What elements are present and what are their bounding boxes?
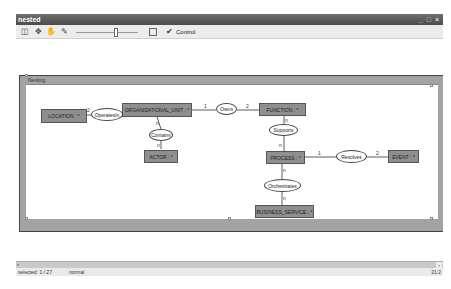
- slider-track: [76, 32, 138, 33]
- multiplicity-label: n: [279, 142, 282, 148]
- diagram-canvas[interactable]: Nesting LOCATION : * ORGANISATIONAL_UNIT: [16, 39, 443, 261]
- relation-owns[interactable]: Owns: [216, 103, 237, 115]
- horizontal-scrollbar[interactable]: ‹ ›: [16, 261, 443, 268]
- multiplicity-label: 2: [246, 103, 249, 109]
- application-window: nested _ □ × ◫ ✥ ✋ ✎ ✔ Control Nesting: [16, 14, 443, 276]
- zoom-slider[interactable]: [76, 27, 138, 37]
- window-controls: _ □ ×: [419, 14, 440, 25]
- entity-process[interactable]: PROCESS : *: [266, 151, 305, 164]
- selection-count: selected: 1 / 27: [18, 268, 52, 276]
- minimize-icon[interactable]: _: [419, 16, 424, 23]
- multiplicity-label: 1: [318, 150, 321, 156]
- entity-function[interactable]: FUNCTION : *: [259, 103, 306, 116]
- eraser-icon[interactable]: ✎: [59, 27, 69, 37]
- scroll-left-icon[interactable]: ‹: [17, 261, 19, 267]
- checkmark-icon[interactable]: ✔: [166, 27, 173, 36]
- relation-operates-in[interactable]: OperatesIn: [91, 108, 123, 121]
- toolbar: ◫ ✥ ✋ ✎ ✔ Control: [16, 25, 443, 39]
- multiplicity-label: n: [283, 167, 286, 173]
- edit-mode: normal: [69, 268, 84, 276]
- relation-orchestrates[interactable]: Orchestrates: [264, 179, 301, 192]
- multiplicity-label: n: [156, 120, 159, 126]
- hand-icon[interactable]: ✋: [46, 27, 56, 37]
- relation-resolves[interactable]: Resolves: [336, 150, 367, 163]
- slider-thumb[interactable]: [114, 28, 118, 37]
- zoom-indicator: 21:2: [431, 268, 441, 276]
- multiplicity-label: 2: [376, 150, 379, 156]
- multiplicity-label: 1: [204, 103, 207, 109]
- entity-event[interactable]: EVENT : *: [388, 150, 419, 163]
- multiplicity-label: n: [157, 142, 160, 148]
- move-icon[interactable]: ✥: [33, 27, 43, 37]
- multiplicity-label: 2: [87, 107, 90, 113]
- title-bar[interactable]: nested _ □ ×: [16, 14, 443, 25]
- layout-icon[interactable]: ◫: [20, 27, 30, 37]
- multiplicity-label: n: [283, 195, 286, 201]
- fit-view-button[interactable]: [149, 28, 157, 36]
- multiplicity-label: n: [285, 117, 288, 123]
- entity-location[interactable]: LOCATION : *: [41, 109, 87, 123]
- maximize-icon[interactable]: □: [427, 16, 432, 23]
- control-label[interactable]: Control: [176, 29, 195, 35]
- entity-actor[interactable]: ACTOR : *: [144, 150, 178, 163]
- entity-business-service[interactable]: BUSINESS_SERVICE : *: [255, 205, 314, 218]
- close-icon[interactable]: ×: [435, 16, 440, 23]
- relation-supports[interactable]: Supports: [269, 124, 298, 136]
- status-bar: selected: 1 / 27 normal 21:2: [16, 268, 443, 276]
- entity-organisational-unit[interactable]: ORGANISATIONAL_UNIT : *: [122, 103, 192, 117]
- relation-contains[interactable]: Contains: [149, 129, 173, 141]
- window-title: nested: [18, 16, 41, 23]
